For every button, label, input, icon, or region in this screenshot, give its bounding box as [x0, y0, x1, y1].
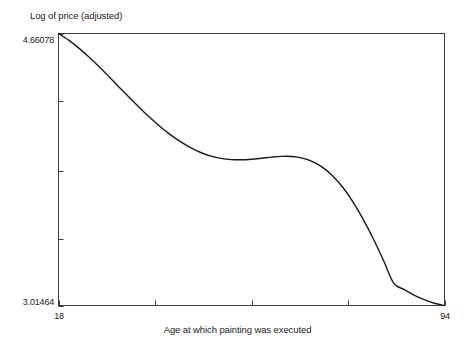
- y-axis-tick-label-max: 4.66078: [0, 35, 54, 45]
- y-axis-tick-label-min: 3.01464: [0, 297, 54, 307]
- x-axis-ticks: [60, 301, 446, 306]
- x-axis-title: Age at which painting was executed: [0, 324, 475, 335]
- plot-area: [0, 0, 475, 355]
- chart-figure: Log of price (adjusted) 4.66078 3.01464 …: [0, 0, 475, 355]
- y-axis-title: Log of price (adjusted): [30, 10, 122, 21]
- y-axis-ticks: [59, 35, 64, 307]
- data-series-line: [59, 34, 445, 306]
- x-axis-tick-label-min: 18: [49, 311, 69, 321]
- x-axis-tick-label-max: 94: [435, 311, 455, 321]
- plot-frame: [59, 34, 445, 306]
